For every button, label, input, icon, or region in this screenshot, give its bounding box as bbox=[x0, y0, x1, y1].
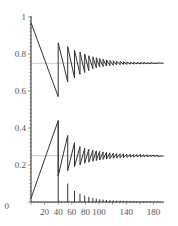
x-tick-labels: 20406080100140180 bbox=[40, 207, 161, 217]
x-tick-label: 180 bbox=[147, 207, 161, 217]
y-tick-label: 0.6 bbox=[15, 86, 27, 96]
y-tick-label: 0.4 bbox=[15, 123, 27, 133]
x-tick-label: 40 bbox=[54, 207, 64, 217]
x-tick-label: 140 bbox=[119, 207, 133, 217]
upper-sawtooth-series bbox=[31, 23, 164, 97]
series-layer bbox=[31, 23, 164, 202]
axes bbox=[28, 16, 164, 205]
x-tick-label: 100 bbox=[92, 207, 106, 217]
line-chart: 00.20.40.60.81 20406080100140180 bbox=[0, 0, 178, 226]
y-tick-label: 0 bbox=[5, 201, 10, 211]
x-tick-label: 60 bbox=[67, 207, 77, 217]
y-tick-labels: 00.20.40.60.81 bbox=[5, 12, 27, 211]
y-tick-label: 0.2 bbox=[15, 160, 26, 170]
x-tick-label: 80 bbox=[81, 207, 91, 217]
x-tick-label: 20 bbox=[40, 207, 50, 217]
lower-sawtooth-series bbox=[31, 121, 164, 199]
y-tick-label: 0.8 bbox=[15, 49, 27, 59]
y-tick-label: 1 bbox=[22, 12, 27, 22]
